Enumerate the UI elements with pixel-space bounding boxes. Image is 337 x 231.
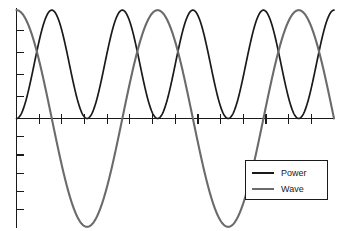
- legend-label-power: Power: [281, 168, 307, 178]
- legend-entry-power: Power: [252, 166, 327, 180]
- chart-container: Power Wave: [0, 0, 337, 231]
- legend-swatch-power: [252, 172, 274, 174]
- chart-legend: Power Wave: [245, 160, 328, 200]
- y-axis-ticks: [17, 30, 24, 210]
- legend-label-wave: Wave: [281, 184, 304, 194]
- legend-swatch-wave: [252, 188, 274, 190]
- legend-entry-wave: Wave: [252, 182, 327, 196]
